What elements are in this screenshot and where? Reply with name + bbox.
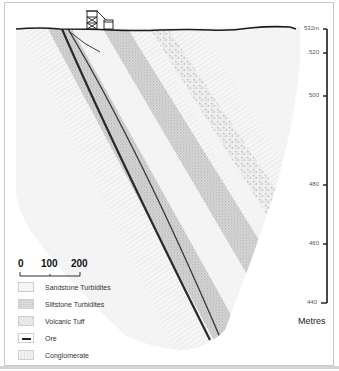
headframe-icon: [86, 11, 106, 29]
building-icon: [104, 20, 113, 29]
scale-bar-labels: 0 100 200: [18, 258, 98, 270]
depth-label-460: 460: [285, 240, 319, 246]
depth-label-520: 520: [285, 49, 319, 55]
depth-label-480: 480: [285, 181, 319, 187]
scale-label-0: 0: [18, 258, 24, 269]
depth-label-500: 500: [285, 92, 319, 98]
ore-swatch-icon: [18, 333, 34, 343]
legend-label: Conglomerate: [45, 352, 89, 359]
siltstone-swatch-icon: [18, 299, 34, 309]
depth-label-532: 532m: [285, 25, 319, 31]
scale-label-200: 200: [71, 258, 88, 269]
conglomerate-swatch-icon: [18, 350, 34, 360]
legend-item-ore: Ore: [18, 332, 57, 344]
legend-label: Ore: [45, 335, 57, 342]
depth-label-440: 440: [283, 299, 317, 305]
legend-label: Sandstone Turbidites: [45, 284, 111, 291]
depth-unit-label: Metres: [298, 316, 326, 326]
legend-label: Siltstone Turbidites: [45, 301, 104, 308]
sandstone-swatch-icon: [18, 282, 34, 292]
legend-item-siltstone: Siltstone Turbidites: [18, 298, 104, 310]
legend-item-conglomerate: Conglomerate: [18, 349, 89, 361]
legend-item-volcanic-tuff: Volcanic Tuff: [18, 315, 85, 327]
legend-item-sandstone: Sandstone Turbidites: [18, 281, 111, 293]
scale-label-100: 100: [41, 258, 58, 269]
legend-label: Volcanic Tuff: [45, 318, 85, 325]
tuff-swatch-icon: [18, 316, 34, 326]
